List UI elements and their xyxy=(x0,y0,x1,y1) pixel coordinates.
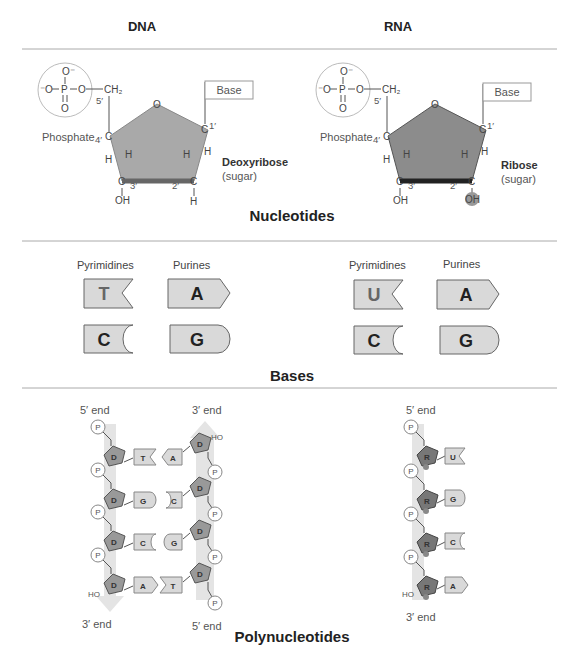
base-letter: A xyxy=(450,582,456,591)
dna-bases: Pyrimidines Purines T A C G xyxy=(77,259,230,353)
h2: H xyxy=(183,149,190,160)
base-u-letter: U xyxy=(368,285,381,305)
pos-2: 2′ xyxy=(172,180,179,191)
base-g-letter: G xyxy=(190,330,204,350)
pos-4: 4′ xyxy=(373,134,380,145)
ring-oxygen: O xyxy=(153,99,161,110)
atom-ch2: CH₂ xyxy=(382,84,400,95)
atom-o-minus: O⁻ xyxy=(62,66,75,77)
atom-p: P xyxy=(61,84,68,95)
h4: H xyxy=(383,154,390,165)
ho: HO xyxy=(402,590,414,599)
pos-5: 5′ xyxy=(374,95,381,106)
h1: H xyxy=(481,146,488,157)
h1: H xyxy=(204,146,211,157)
h2: H xyxy=(461,149,468,160)
base-letter: G xyxy=(171,539,177,548)
atom-o-minus: O⁻ xyxy=(340,66,353,77)
rna-single-strand: 5′ end 3′ end HO P R U P R G P xyxy=(402,404,468,623)
c1: C xyxy=(201,124,208,135)
c2: C xyxy=(190,176,197,187)
base-letter: A xyxy=(140,582,146,591)
base-letter: G xyxy=(140,497,146,506)
base-a-letter: A xyxy=(460,285,473,305)
bases-title: Bases xyxy=(270,367,314,384)
oh-3: OH xyxy=(393,195,408,206)
base-letter: T xyxy=(141,454,146,463)
dna-double-strand: 5′ end 3′ end 3′ end 5′ end HO HO P D T … xyxy=(80,404,223,632)
c3: C xyxy=(396,176,403,187)
base-label: Base xyxy=(494,86,519,98)
rna-column-title: RNA xyxy=(384,19,413,34)
pos-1: 1′ xyxy=(487,120,494,131)
base-g-letter: G xyxy=(459,331,473,351)
pyrimidines-label: Pyrimidines xyxy=(349,259,406,271)
dna-rna-diagram: DNA RNA O⁻ ⁻O P O O CH₂ 5′ Phosphate O C… xyxy=(0,0,585,657)
five-prime-end-right: 5′ end xyxy=(192,620,222,632)
c2: C xyxy=(468,176,475,187)
phosphate-p: P xyxy=(95,466,100,475)
base-c-letter: C xyxy=(98,330,111,350)
deoxyribose-ring xyxy=(110,104,208,181)
ho-left: HO xyxy=(88,590,100,599)
atom-o-double: O xyxy=(61,103,69,114)
phosphate-p: P xyxy=(95,551,100,560)
base-letter: C xyxy=(171,497,177,506)
ho-right: HO xyxy=(211,433,223,442)
atom-p: P xyxy=(339,84,346,95)
h4: H xyxy=(105,154,112,165)
ribose-ring xyxy=(388,104,486,181)
c4: C xyxy=(105,131,112,142)
h-2: H xyxy=(190,196,197,207)
left-unit: P D T xyxy=(91,420,156,466)
base-t-letter: T xyxy=(99,284,110,304)
three-prime-end: 3′ end xyxy=(406,611,436,623)
base-letter: T xyxy=(171,582,176,591)
pos-4: 4′ xyxy=(95,134,102,145)
three-prime-end-right: 3′ end xyxy=(192,404,222,416)
pos-1: 1′ xyxy=(209,120,216,131)
base-c-letter: C xyxy=(368,331,381,351)
atom-o: O xyxy=(356,84,364,95)
pos-3: 3′ xyxy=(408,180,415,191)
phosphate-label: Phosphate xyxy=(320,131,373,143)
pyrimidines-label: Pyrimidines xyxy=(77,259,134,271)
purines-label: Purines xyxy=(173,259,211,271)
sugar-d: D xyxy=(111,453,117,462)
nucleotides-title: Nucleotides xyxy=(249,207,334,224)
rna-nucleotide: O⁻ ⁻O P O O CH₂ 5′ Phosphate O C 4′ H C … xyxy=(316,63,538,206)
oh-3: OH xyxy=(115,195,130,206)
base-letter: A xyxy=(170,454,176,463)
dna-column-title: DNA xyxy=(128,19,157,34)
sugar-note: (sugar) xyxy=(501,173,536,185)
atom-o-minus-left: ⁻O xyxy=(40,84,53,95)
pos-3: 3′ xyxy=(130,180,137,191)
base-letter: U xyxy=(450,453,456,462)
phosphate-p: P xyxy=(95,423,100,432)
sugar-d: D xyxy=(111,538,117,547)
c1: C xyxy=(479,124,486,135)
left-unit: P D G xyxy=(91,463,156,509)
phosphate-p: P xyxy=(212,510,217,519)
left-unit: P D A xyxy=(91,548,158,594)
c4: C xyxy=(383,131,390,142)
atom-o: O xyxy=(78,84,86,95)
base-a-letter: A xyxy=(191,284,204,304)
phosphate-p: P xyxy=(212,599,217,608)
purines-label: Purines xyxy=(443,258,481,270)
c3: C xyxy=(118,176,125,187)
five-prime-end-left: 5′ end xyxy=(80,404,110,416)
sugar-d: D xyxy=(197,570,203,579)
ring-oxygen: O xyxy=(431,99,439,110)
base-letter: C xyxy=(450,538,456,547)
base-label: Base xyxy=(216,84,241,96)
sugar-r: R xyxy=(424,497,430,506)
polynucleotides-title: Polynucleotides xyxy=(234,628,349,645)
phosphate-p: P xyxy=(408,553,413,562)
sugar-d: D xyxy=(197,440,203,449)
h3: H xyxy=(403,149,410,160)
five-prime-end: 5′ end xyxy=(406,404,436,416)
atom-o-double: O xyxy=(339,103,347,114)
base-letter: G xyxy=(450,495,456,504)
atom-o-minus-left: ⁻O xyxy=(318,84,331,95)
